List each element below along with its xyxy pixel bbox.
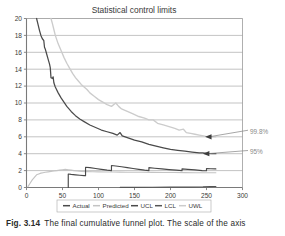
series-line-lcl (120, 186, 216, 187)
svg-text:10: 10 (15, 99, 23, 106)
series-line-uwl (51, 19, 216, 137)
svg-text:8: 8 (18, 116, 22, 123)
legend-item-predicted[interactable]: Predicted (93, 202, 129, 209)
figure-caption: Fig. 3.14The final cumulative funnel plo… (6, 218, 281, 229)
svg-text:0: 0 (18, 184, 22, 191)
annotation-arrow-1 (203, 151, 210, 156)
series-line-predicted (28, 169, 216, 186)
annotation-label-1: 95% (250, 148, 263, 155)
svg-text:50: 50 (59, 192, 67, 199)
svg-text:250: 250 (201, 192, 212, 199)
svg-text:2: 2 (18, 167, 22, 174)
svg-text:300: 300 (237, 192, 248, 199)
legend-label-predicted: Predicted (103, 202, 130, 209)
annotation-arrow-0 (205, 134, 212, 139)
legend-item-uwl[interactable]: UWL (179, 202, 203, 209)
y-axis-ticks: 02468101214161820 (15, 15, 27, 191)
caption-text: The final cumulative funnel plot. The sc… (44, 219, 245, 228)
svg-text:150: 150 (129, 192, 140, 199)
legend-item-lcl[interactable]: LCL (155, 202, 176, 209)
legend-label-lcl: LCL (165, 202, 177, 209)
chart-legend: ActualPredictedUCLLCLUWL (57, 200, 211, 212)
series-line-actual (68, 166, 216, 188)
svg-text:16: 16 (15, 49, 23, 56)
annotation-label-0: 99.8% (250, 128, 268, 135)
svg-text:20: 20 (15, 15, 23, 22)
legend-label-uwl: UWL (189, 202, 203, 209)
svg-text:4: 4 (18, 150, 22, 157)
svg-text:6: 6 (18, 133, 22, 140)
chart-title: Statistical control limits (92, 5, 177, 15)
annotation-leader-1 (207, 151, 248, 154)
svg-text:18: 18 (15, 32, 23, 39)
figure-container: 02468101214161820 050100150200250300 99.… (0, 0, 285, 236)
svg-text:14: 14 (15, 66, 23, 73)
svg-text:0: 0 (25, 192, 29, 199)
svg-text:100: 100 (93, 192, 104, 199)
legend-item-ucl[interactable]: UCL (131, 202, 153, 209)
x-axis-ticks: 050100150200250300 (25, 188, 249, 199)
legend-item-actual[interactable]: Actual (63, 202, 90, 209)
legend-label-actual: Actual (73, 202, 90, 209)
legend-label-ucl: UCL (141, 202, 154, 209)
annotations: 99.8%95% (203, 128, 269, 156)
caption-number: Fig. 3.14 (6, 219, 40, 228)
svg-text:12: 12 (15, 82, 23, 89)
chart-canvas: 02468101214161820 050100150200250300 99.… (0, 0, 285, 218)
funnel-plot-svg: 02468101214161820 050100150200250300 99.… (0, 0, 285, 218)
svg-text:200: 200 (165, 192, 176, 199)
